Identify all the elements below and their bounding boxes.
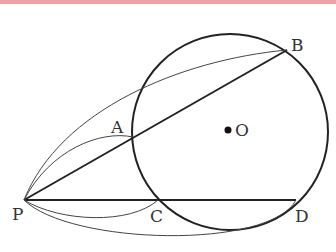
arc-p-to-c <box>24 200 158 218</box>
label-d: D <box>295 206 309 226</box>
label-b: B <box>291 35 304 55</box>
circle-secant-diagram: P A B C D O <box>0 0 336 252</box>
label-c: C <box>150 206 163 226</box>
label-p: P <box>12 204 23 224</box>
geometry-figure: P A B C D O <box>0 0 336 252</box>
label-a: A <box>110 117 124 137</box>
label-o: O <box>235 120 249 140</box>
center-dot <box>225 127 232 134</box>
